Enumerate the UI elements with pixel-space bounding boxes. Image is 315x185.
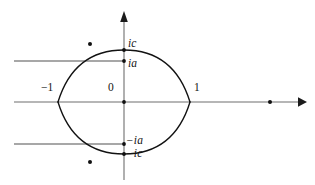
label-ia: ia xyxy=(128,58,137,70)
imaginary-axis-arrowhead-icon xyxy=(120,11,128,22)
point-origin xyxy=(122,100,126,104)
point-real-axis xyxy=(268,100,272,104)
point-upper-free xyxy=(88,42,92,46)
point-ic xyxy=(122,48,126,52)
complex-plane-figure: −1 0 1 ic ia −ia −ic xyxy=(0,0,315,185)
label-minus-ic: −ic xyxy=(126,148,142,160)
label-origin: 0 xyxy=(108,82,114,94)
label-positive-one: 1 xyxy=(194,82,200,94)
label-negative-one: −1 xyxy=(41,82,53,94)
point-lower-free xyxy=(88,160,92,164)
label-minus-ia: −ia xyxy=(126,135,143,147)
real-axis-arrowhead-icon xyxy=(298,97,307,107)
point-ia xyxy=(122,59,126,63)
label-ic: ic xyxy=(128,38,137,50)
